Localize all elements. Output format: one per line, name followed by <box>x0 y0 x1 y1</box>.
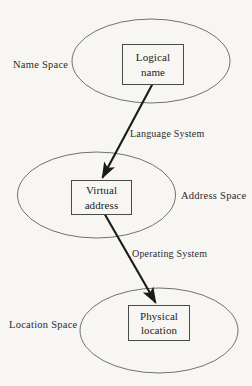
label-name-space: Name Space <box>13 59 68 70</box>
node-physical-location-line2: location <box>141 323 177 337</box>
node-physical-location: Physical location <box>128 305 190 341</box>
node-physical-location-line1: Physical <box>140 309 178 323</box>
label-location-space: Location Space <box>9 319 78 330</box>
node-logical-name-line2: name <box>141 65 165 79</box>
node-logical-name-line1: Logical <box>136 50 170 64</box>
node-virtual-address: Virtual address <box>71 180 132 215</box>
label-address-space: Address Space <box>181 190 246 201</box>
node-logical-name: Logical name <box>122 44 184 85</box>
binding-spaces-diagram: Logical name Virtual address Physical lo… <box>0 0 252 386</box>
node-virtual-address-line2: address <box>85 198 119 212</box>
node-virtual-address-line1: Virtual <box>86 183 117 197</box>
label-language-system: Language System <box>130 128 204 139</box>
label-operating-system: Operating System <box>132 248 207 259</box>
